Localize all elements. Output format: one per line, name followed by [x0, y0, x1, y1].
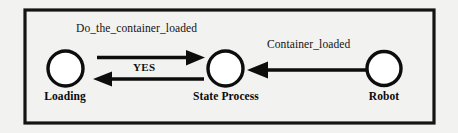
- diagram-graphics: [0, 0, 458, 133]
- node-loading-circle[interactable]: [48, 51, 83, 86]
- edge-label-container-loaded: Container_loaded: [267, 38, 350, 50]
- edge-robot-to-state-process: [247, 62, 366, 79]
- node-robot-circle[interactable]: [367, 52, 401, 86]
- edge-label-yes: YES: [133, 61, 156, 73]
- node-label-state-process: State Process: [184, 90, 268, 102]
- edge-state-process-to-loading: [93, 72, 204, 87]
- diagram-canvas: Do_the_container_loaded YES Container_lo…: [0, 0, 458, 133]
- node-label-robot: Robot: [356, 90, 412, 102]
- node-state-process-circle[interactable]: [208, 51, 243, 86]
- edge-label-do-the-container-loaded: Do_the_container_loaded: [76, 22, 197, 34]
- node-label-loading: Loading: [34, 90, 96, 102]
